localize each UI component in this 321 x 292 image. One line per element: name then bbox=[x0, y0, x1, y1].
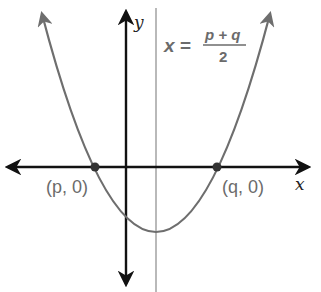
equation-denominator: 2 bbox=[219, 48, 227, 65]
root-point-q bbox=[213, 163, 222, 172]
equation-equals: = bbox=[180, 35, 191, 56]
parabola-diagram: y x (p, 0) (q, 0) x = p + q 2 bbox=[0, 0, 321, 292]
equation-lhs: x bbox=[163, 35, 176, 56]
point-label-q: (q, 0) bbox=[222, 177, 264, 197]
y-axis-label: y bbox=[133, 12, 144, 32]
equation-numerator: p + q bbox=[204, 26, 240, 43]
symmetry-equation: x = p + q 2 bbox=[163, 26, 246, 65]
x-axis-label: x bbox=[295, 174, 305, 194]
root-point-p bbox=[91, 163, 100, 172]
point-label-p: (p, 0) bbox=[46, 177, 88, 197]
